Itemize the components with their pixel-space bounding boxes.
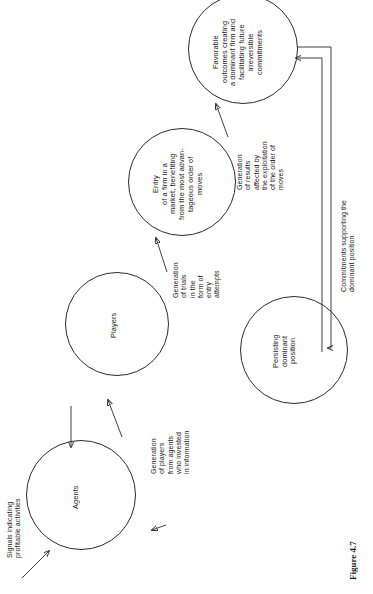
edge-label-generation-players: Generation of players from agents who in… [150, 388, 208, 474]
arrow-entry-to-favorable [216, 104, 228, 137]
figure-canvas: Agents Players Entry of a firm in a mark… [0, 0, 373, 594]
node-entry-label: Entry of a firm in a market, benefiting … [152, 148, 214, 220]
arrow-agents-to-players [108, 400, 122, 437]
node-players-label: Players [110, 292, 130, 358]
arrow-feedback-into-agents [152, 525, 166, 530]
edge-label-generation-results: Generation of results affected by the ex… [236, 108, 304, 190]
edge-label-commitments: Commitments supporting the dominant posi… [340, 182, 364, 292]
node-favorable-outcomes-label: Favorable outcomes creating a dominant f… [212, 14, 274, 90]
node-agents-label: Agents [72, 462, 92, 532]
edge-label-generation-trials: Generation of trials in the form of entr… [172, 238, 240, 298]
node-persisting-position-label: Persisting dominant position [272, 320, 308, 382]
arrow-players-to-entry [156, 238, 167, 272]
edge-label-signals: Signals indicating profitable activities [6, 448, 30, 558]
figure-caption: Figure 4.7 [348, 522, 364, 580]
